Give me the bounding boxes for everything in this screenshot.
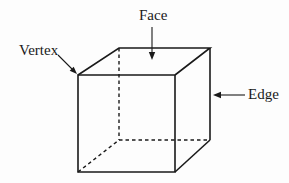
face-arrowhead-icon: [149, 52, 155, 60]
vertex-arrow: [58, 55, 77, 74]
top-face-edges: [78, 48, 210, 75]
vertex-label: Vertex: [19, 43, 58, 58]
cube-solid-edges: [78, 48, 210, 172]
edge-arrowhead-icon: [213, 92, 221, 98]
bottom-right-edge: [175, 140, 210, 172]
bottom-left-hidden-edge: [78, 140, 119, 172]
edge-label: Edge: [248, 87, 279, 102]
cube-drawing: [0, 0, 289, 183]
edge-arrow: [213, 92, 245, 98]
vertex-arrow-line: [58, 55, 72, 69]
cube-hidden-edges: [78, 48, 210, 172]
front-face-outline: [78, 75, 175, 172]
face-label: Face: [139, 8, 167, 23]
cube-diagram: Face Vertex Edge: [0, 0, 289, 183]
face-arrow: [149, 27, 155, 60]
